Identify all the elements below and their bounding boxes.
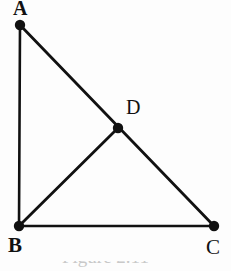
vertex-label-c: C — [206, 237, 220, 258]
vertex-dot-b — [14, 221, 24, 231]
vertex-dot-c — [209, 221, 219, 231]
vertex-dot-a — [15, 20, 25, 30]
vertex-label-a: A — [13, 0, 27, 18]
vertex-label-b: B — [8, 235, 22, 256]
vertex-label-d: D — [126, 97, 140, 117]
segment-ab — [19, 25, 20, 226]
caption-strip: Figure 2.11 — [0, 261, 231, 271]
geometry-figure: A B C D Figure 2.11 — [0, 0, 231, 271]
figure-caption: Figure 2.11 — [62, 261, 149, 266]
figure-canvas — [0, 0, 231, 271]
segment-bd-median — [19, 128, 118, 226]
vertex-dot-d — [113, 123, 123, 133]
